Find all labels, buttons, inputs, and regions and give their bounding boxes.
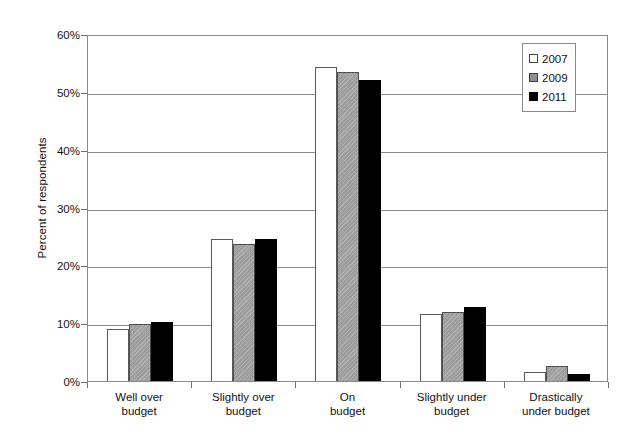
bar xyxy=(337,72,359,381)
legend-item: 2011 xyxy=(529,87,568,106)
bar xyxy=(211,239,233,381)
bar-chart: Percent of respondents 0%10%20%30%40%50%… xyxy=(0,0,631,443)
y-axis-tick-label: 50% xyxy=(20,87,80,99)
legend-swatch-icon xyxy=(529,54,538,63)
legend-label: 2007 xyxy=(542,53,568,65)
y-axis-tick-label: 40% xyxy=(20,145,80,157)
x-axis-category-label: Slightly overbudget xyxy=(183,390,303,418)
legend-item: 2007 xyxy=(529,49,568,68)
bar xyxy=(129,324,151,381)
bar xyxy=(464,307,486,381)
bar xyxy=(359,80,381,381)
bar xyxy=(315,67,337,381)
legend-label: 2011 xyxy=(542,91,567,103)
x-axis-category-label-line: budget xyxy=(183,404,303,418)
x-axis-category-label-line: budget xyxy=(288,404,408,418)
legend-swatch-icon xyxy=(529,73,538,82)
bar xyxy=(442,312,464,381)
legend-swatch-icon xyxy=(529,92,538,101)
bar xyxy=(546,366,568,381)
x-axis-category-label: Slightly underbudget xyxy=(392,390,512,418)
legend-label: 2009 xyxy=(542,72,568,84)
bar xyxy=(420,314,442,381)
bar-group xyxy=(296,36,400,381)
x-axis-category-label-line: budget xyxy=(79,404,199,418)
x-axis-category-label-line: Slightly over xyxy=(183,390,303,404)
y-axis-tick-label: 10% xyxy=(20,318,80,330)
bar xyxy=(255,239,277,381)
x-axis-category-label: Drasticallyunder budget xyxy=(496,390,616,418)
x-axis-category-label-line: On xyxy=(288,390,408,404)
y-axis-tick-label: 60% xyxy=(20,29,80,41)
x-axis-tick-mark xyxy=(400,382,401,388)
x-axis-category-label-line: budget xyxy=(392,404,512,418)
x-axis-category-label-line: Well over xyxy=(79,390,199,404)
bar xyxy=(151,322,173,381)
bar xyxy=(107,329,129,381)
y-axis-tick-label: 20% xyxy=(20,260,80,272)
bar xyxy=(568,374,590,381)
x-axis-tick-mark xyxy=(295,382,296,388)
x-axis-category-label-line: Drastically xyxy=(496,390,616,404)
legend-item: 2009 xyxy=(529,68,568,87)
bar-group xyxy=(192,36,296,381)
x-axis-tick-mark xyxy=(191,382,192,388)
x-axis-tick-mark xyxy=(87,382,88,388)
y-axis-tick-label: 0% xyxy=(20,376,80,388)
y-axis-tick-label: 30% xyxy=(20,203,80,215)
x-axis-category-label-line: Slightly under xyxy=(392,390,512,404)
bar xyxy=(233,244,255,381)
x-axis-category-label: Well overbudget xyxy=(79,390,199,418)
legend: 200720092011 xyxy=(522,43,576,112)
bar-group xyxy=(88,36,192,381)
x-axis-category-label: Onbudget xyxy=(288,390,408,418)
bar xyxy=(524,372,546,381)
x-axis-tick-mark xyxy=(504,382,505,388)
x-axis-category-label-line: under budget xyxy=(496,404,616,418)
bar-group xyxy=(401,36,505,381)
x-axis-tick-mark xyxy=(608,382,609,388)
